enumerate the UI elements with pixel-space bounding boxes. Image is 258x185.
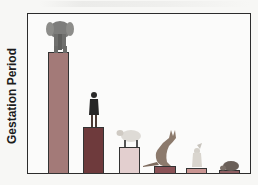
human-icon (88, 91, 100, 128)
faint-background-text (40, 1, 250, 7)
bar-sheep (119, 147, 140, 174)
bar-elephant (48, 52, 69, 174)
rabbit-icon (190, 143, 204, 169)
bar-human (83, 127, 104, 174)
hedgehog-icon (220, 160, 240, 171)
kangaroo-icon (143, 128, 181, 168)
y-axis-label-text: Gestation Period (5, 48, 19, 144)
y-axis-label: Gestation Period (5, 37, 19, 155)
sheep-icon (116, 128, 142, 148)
elephant-icon (46, 18, 74, 54)
